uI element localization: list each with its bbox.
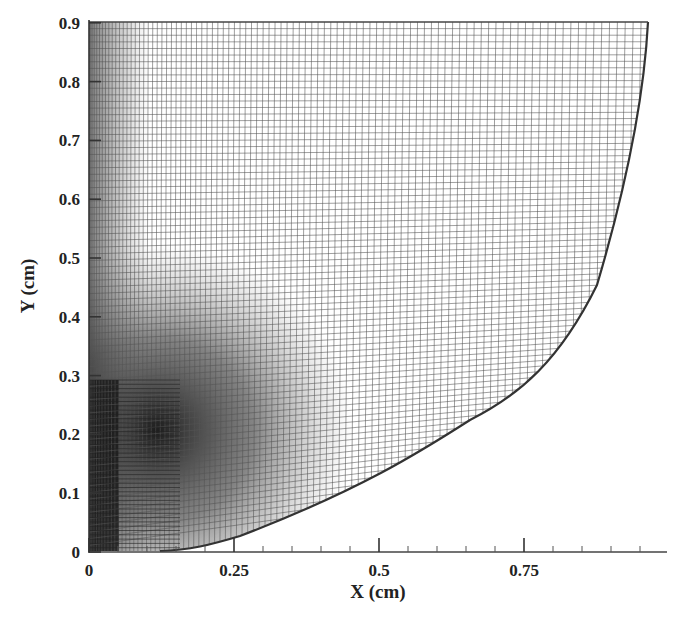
- y-tick-label: 0.7: [59, 131, 81, 150]
- y-tick-label: 0.1: [59, 484, 80, 503]
- x-tick-label: 0.75: [509, 561, 539, 580]
- y-tick-label: 0.4: [59, 308, 81, 327]
- y-tick-label: 0.8: [59, 73, 80, 92]
- y-tick-label: 0.5: [59, 249, 80, 268]
- mesh-grid: [89, 22, 680, 552]
- y-tick-label: 0.2: [59, 425, 80, 444]
- y-axis-title: Y (cm): [17, 259, 39, 314]
- y-tick-label: 0: [72, 543, 81, 562]
- x-tick-label: 0.25: [219, 561, 249, 580]
- y-tick-label: 0.6: [59, 190, 80, 209]
- y-tick-label: 0.9: [59, 14, 80, 33]
- x-tick-label: 0: [85, 561, 94, 580]
- y-tick-label: 0.3: [59, 367, 80, 386]
- x-tick-label: 0.5: [368, 561, 389, 580]
- x-axis-title: X (cm): [350, 581, 405, 603]
- mesh-plot: 00.250.50.75 00.10.20.30.40.50.60.70.80.…: [0, 0, 683, 625]
